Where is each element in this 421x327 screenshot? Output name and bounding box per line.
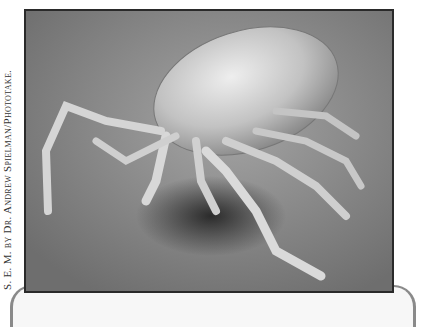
tick-sem-photo: [24, 9, 394, 293]
photo-credit: S. E. M. by Dr. Andrew Spielman/Phototak…: [1, 0, 21, 290]
tick-illustration: [26, 11, 392, 291]
